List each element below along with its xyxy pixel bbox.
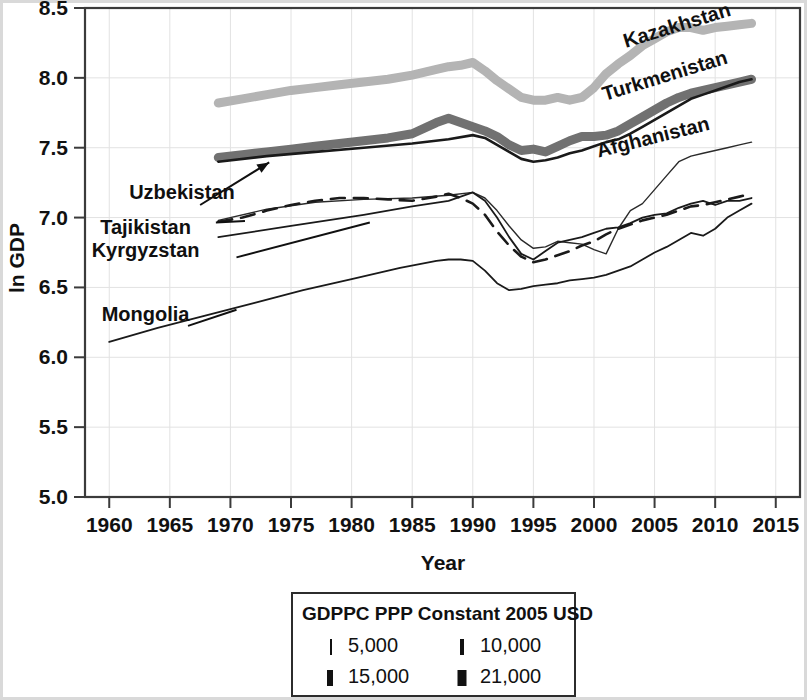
y-tick-label: 8.5 — [39, 0, 69, 19]
x-tick-label: 1990 — [449, 513, 496, 536]
y-tick-label: 7.0 — [39, 206, 68, 229]
legend-entry-label: 5,000 — [348, 634, 398, 656]
y-tick-label: 8.0 — [39, 66, 68, 89]
x-tick-label: 2005 — [631, 513, 678, 536]
y-tick-label: 5.5 — [39, 415, 69, 438]
x-tick-label: 1980 — [328, 513, 375, 536]
legend-swatch — [460, 639, 464, 655]
chart-figure: 1960196519701975198019851990199520002005… — [0, 0, 807, 700]
legend-swatch — [330, 639, 332, 655]
y-tick-label: 5.0 — [39, 485, 68, 508]
legend-swatch — [327, 670, 333, 686]
y-axis-title: ln GDP — [5, 223, 28, 293]
legend-entry-label: 21,000 — [480, 665, 541, 687]
x-tick-label: 1985 — [389, 513, 436, 536]
x-tick-label: 1975 — [268, 513, 315, 536]
series-label-tajikistan: Tajikistan — [100, 216, 191, 238]
legend-title: GDPPC PPP Constant 2005 USD — [302, 603, 593, 624]
x-axis-title: Year — [421, 551, 465, 574]
x-tick-label: 1970 — [207, 513, 254, 536]
x-tick-label: 2000 — [571, 513, 618, 536]
legend-entry-label: 15,000 — [348, 665, 409, 687]
legend-entry-label: 10,000 — [480, 634, 541, 656]
y-tick-label: 6.0 — [39, 345, 68, 368]
x-tick-label: 2010 — [692, 513, 739, 536]
y-tick-label: 6.5 — [39, 275, 69, 298]
series-label-kyrgyzstan: Kyrgyzstan — [92, 239, 200, 261]
y-tick-label: 7.5 — [39, 136, 69, 159]
series-label-mongolia: Mongolia — [102, 303, 191, 325]
x-tick-label: 1960 — [86, 513, 133, 536]
leader-line — [216, 221, 245, 222]
legend: GDPPC PPP Constant 2005 USD 5,00010,0001… — [292, 593, 593, 696]
legend-swatch — [458, 670, 467, 686]
x-tick-label: 2015 — [752, 513, 799, 536]
x-tick-label: 1965 — [146, 513, 193, 536]
x-tick-label: 1995 — [510, 513, 557, 536]
